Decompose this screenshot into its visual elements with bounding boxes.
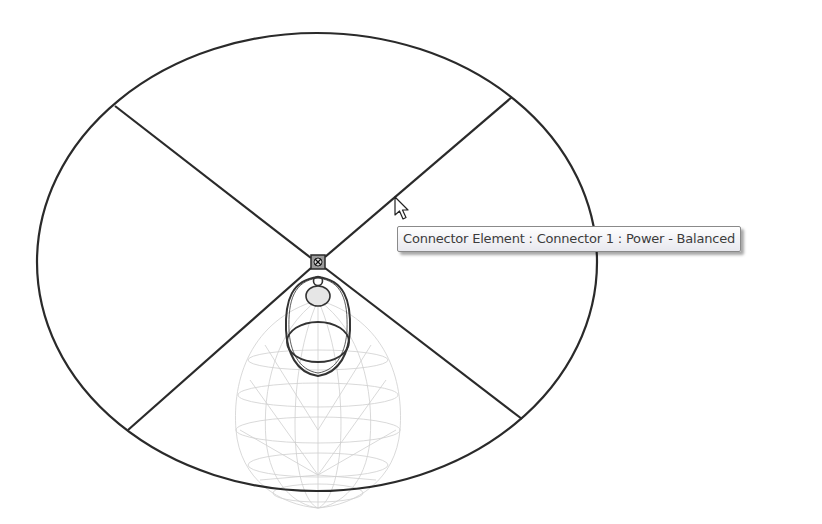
- revit-3d-view-canvas[interactable]: Connector Element : Connector 1 : Power …: [0, 0, 822, 524]
- lamp-wireframe: [235, 300, 400, 508]
- mouse-cursor-icon: [394, 196, 412, 222]
- connector-element-icon[interactable]: [311, 255, 325, 269]
- light-fixture-drawing[interactable]: [0, 0, 822, 524]
- element-tooltip: Connector Element : Connector 1 : Power …: [397, 226, 741, 252]
